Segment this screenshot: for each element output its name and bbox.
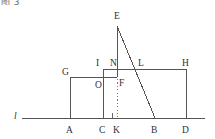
geometry-figure: 图 3 EGINLHOFACKBD l: [0, 0, 215, 139]
figure-canvas: [0, 0, 215, 139]
point-label-d: D: [182, 126, 189, 136]
line-l-label: l: [14, 112, 17, 122]
segment-E-L-B: [117, 26, 155, 118]
point-label-i: I: [96, 59, 99, 69]
point-label-k: K: [113, 126, 120, 136]
point-label-f: F: [119, 79, 124, 89]
point-label-h: H: [182, 59, 189, 69]
marker-layer: [112, 113, 117, 118]
point-label-o: O: [95, 81, 102, 91]
point-label-g: G: [62, 68, 69, 78]
point-label-c: C: [99, 126, 105, 136]
point-label-a: A: [66, 126, 73, 136]
point-label-b: B: [151, 126, 157, 136]
point-label-e: E: [114, 12, 120, 22]
right-angle-at-K: [112, 113, 117, 118]
segments-layer: [22, 26, 205, 118]
point-label-l: L: [138, 59, 144, 69]
point-label-n: N: [110, 59, 117, 69]
